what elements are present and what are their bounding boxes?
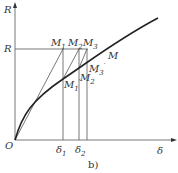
tick-delta1-label: δ1 bbox=[56, 145, 67, 158]
diagram-canvas bbox=[0, 0, 178, 173]
origin-label: O bbox=[5, 141, 13, 151]
tick-delta2-label: δ2 bbox=[75, 145, 86, 158]
point-m2-label: M2 bbox=[68, 38, 83, 51]
x-axis-arrow-icon bbox=[171, 138, 177, 142]
y-axis-arrow-icon bbox=[13, 2, 17, 8]
point-m3-label: M3 bbox=[83, 38, 98, 51]
x-axis-label: δ bbox=[157, 146, 163, 156]
secant-m1p-m2 bbox=[63, 49, 79, 79]
r-level-label: R bbox=[4, 44, 12, 54]
curve-label: M bbox=[108, 51, 118, 61]
secant-o-m1 bbox=[15, 49, 63, 140]
figure-caption: b) bbox=[88, 160, 98, 170]
point-m3prime-label: M3′ bbox=[89, 63, 105, 77]
point-m1prime-label: M1′ bbox=[64, 79, 80, 93]
y-axis-label: R bbox=[4, 5, 12, 15]
point-m1-label: M1 bbox=[51, 38, 66, 51]
